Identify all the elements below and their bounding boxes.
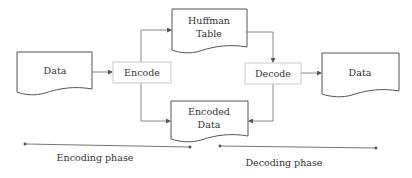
node-encode-label: Encode	[124, 67, 160, 78]
node-huffman-table-label-line1: Huffman	[188, 15, 230, 26]
encoding-phase-label: Encoding phase	[57, 152, 134, 163]
huffman-coding-diagram: Data Encode Huffman Table Encoded Data D…	[0, 0, 412, 178]
connector-decode-to-encoded-data	[249, 84, 273, 121]
connector-encode-to-huffman-table	[141, 30, 171, 62]
node-encoded-data: Encoded Data	[171, 101, 248, 142]
node-input-data-label: Data	[44, 65, 67, 76]
decoding-phase-span: Decoding phase	[220, 146, 376, 168]
node-decode: Decode	[245, 63, 301, 84]
node-input-data: Data	[17, 52, 92, 95]
node-encoded-data-label-line1: Encoded	[188, 106, 230, 117]
encoding-phase-span: Encoding phase	[25, 144, 190, 163]
decoding-phase-label: Decoding phase	[246, 157, 323, 168]
connector-huffman-table-to-decode	[247, 32, 273, 62]
node-encoded-data-label-line2: Data	[198, 119, 221, 130]
node-huffman-table: Huffman Table	[172, 9, 247, 53]
node-output-data: Data	[322, 53, 399, 97]
node-decode-label: Decode	[255, 68, 291, 79]
node-huffman-table-label-line2: Table	[196, 28, 222, 39]
node-encode: Encode	[113, 62, 171, 83]
node-output-data-label: Data	[349, 67, 372, 78]
connector-encode-to-encoded-data	[141, 83, 170, 121]
